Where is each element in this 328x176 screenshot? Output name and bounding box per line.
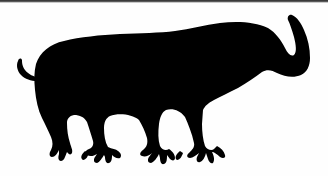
image-frame	[0, 0, 328, 176]
body	[34, 15, 310, 164]
front-foot-toes	[176, 151, 183, 160]
silhouette-body	[17, 15, 310, 164]
animal-silhouette	[0, 0, 328, 176]
